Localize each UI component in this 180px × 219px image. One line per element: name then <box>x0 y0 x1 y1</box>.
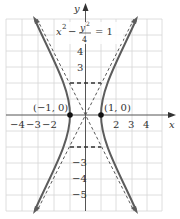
svg-text:y: y <box>79 23 86 33</box>
arrow-icon <box>33 16 40 24</box>
svg-text:4: 4 <box>77 46 83 57</box>
x-axis-label: x <box>169 119 175 130</box>
vertex-left-label: (−1, 0) <box>33 102 68 113</box>
vertex-right <box>98 112 104 118</box>
svg-text:−4: −4 <box>10 119 25 130</box>
svg-text:−3: −3 <box>72 157 87 168</box>
svg-text:2: 2 <box>113 119 119 130</box>
svg-text:= 1: = 1 <box>95 26 113 37</box>
equation-label: x 2 − y 2 4 = 1 <box>55 20 123 44</box>
svg-text:−5: −5 <box>72 189 87 200</box>
hyperbola-graph: x 2 − y 2 4 = 1 y x −4 −3 −2 2 3 4 4 3 −… <box>0 0 180 219</box>
x-tick-labels: −4 −3 −2 2 3 4 <box>10 119 149 130</box>
svg-text:2: 2 <box>86 20 90 27</box>
y-axis-label: y <box>73 3 80 14</box>
svg-text:2: 2 <box>62 23 66 31</box>
y-axis-arrow-icon <box>83 3 89 11</box>
svg-text:−2: −2 <box>42 119 57 130</box>
x-axis-arrow-icon <box>168 112 176 118</box>
svg-text:3: 3 <box>77 62 83 73</box>
vertex-left <box>67 112 73 118</box>
svg-text:3: 3 <box>128 119 134 130</box>
vertex-right-label: (1, 0) <box>104 102 131 113</box>
svg-text:4: 4 <box>82 35 87 44</box>
y-tick-labels: 4 3 −3 −4 −5 <box>72 46 87 200</box>
svg-text:−: − <box>68 26 76 37</box>
svg-text:−4: −4 <box>72 173 87 184</box>
svg-text:−3: −3 <box>26 119 41 130</box>
svg-text:4: 4 <box>143 119 149 130</box>
